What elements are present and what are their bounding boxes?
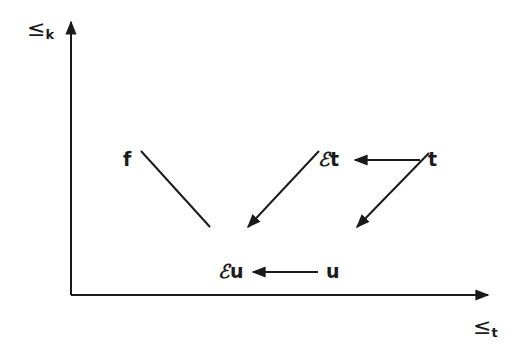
node-Et: ℰt xyxy=(318,150,339,169)
node-f-label: f xyxy=(123,148,131,170)
edge-f-to-Eu xyxy=(141,151,210,227)
node-Et-prefix: ℰ xyxy=(318,148,330,170)
edge-Et-to-Eu xyxy=(248,151,319,227)
y-axis-subscript: k xyxy=(45,27,54,42)
x-axis-symbol: ≤ xyxy=(473,314,491,339)
node-Eu: ℰu xyxy=(218,262,244,281)
y-axis-label: ≤k xyxy=(27,18,54,41)
node-Eu-prefix: ℰ xyxy=(218,260,230,282)
node-u: u xyxy=(326,262,340,281)
y-axis-symbol: ≤ xyxy=(27,16,45,41)
bilattice-order-diagram: ≤k ≤t f ℰt t ℰu u xyxy=(0,0,520,346)
x-axis-label: ≤t xyxy=(473,316,498,339)
node-t-label: t xyxy=(428,148,437,170)
diagram-canvas xyxy=(0,0,520,346)
x-axis-subscript: t xyxy=(491,325,497,340)
node-Et-label: t xyxy=(330,148,339,170)
edge-t-to-u xyxy=(357,153,429,227)
node-Eu-label: u xyxy=(230,260,244,282)
node-t: t xyxy=(428,150,437,169)
node-f: f xyxy=(123,150,131,169)
node-u-label: u xyxy=(326,260,340,282)
